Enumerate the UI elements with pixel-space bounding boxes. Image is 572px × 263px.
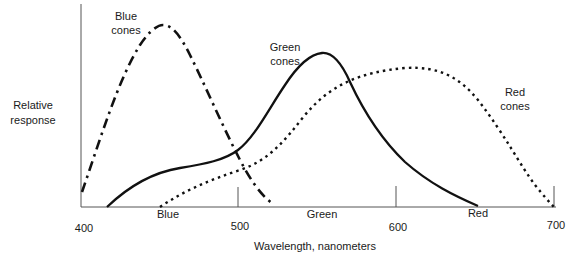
blue-cones-label-line1: Blue xyxy=(103,10,149,23)
red-cones-label-line1: Red xyxy=(495,86,535,99)
tick-label-600: 600 xyxy=(383,221,413,234)
green-cones-label: Green cones xyxy=(262,41,308,68)
x-axis-label: Wavelength, nanometers xyxy=(220,240,410,253)
red-cones-label: Red cones xyxy=(495,86,535,113)
blue-cones-label: Blue cones xyxy=(103,10,149,37)
green-cones-label-line1: Green xyxy=(262,41,308,54)
blue-cones-label-line2: cones xyxy=(103,24,149,37)
tick-label-500: 500 xyxy=(225,220,255,233)
band-label-red: Red xyxy=(460,207,496,220)
red-cones-label-line2: cones xyxy=(495,100,535,113)
green-cones-curve xyxy=(107,53,478,207)
y-axis-label-line1: Relative xyxy=(3,99,63,112)
tick-label-700: 700 xyxy=(541,219,571,232)
y-axis-label: Relative response xyxy=(3,99,63,127)
blue-cones-curve xyxy=(82,25,273,204)
band-label-blue: Blue xyxy=(150,208,186,221)
green-cones-label-line2: cones xyxy=(262,55,308,68)
y-axis-label-line2: response xyxy=(3,114,63,127)
tick-label-400: 400 xyxy=(69,222,99,235)
band-label-green: Green xyxy=(300,208,344,221)
